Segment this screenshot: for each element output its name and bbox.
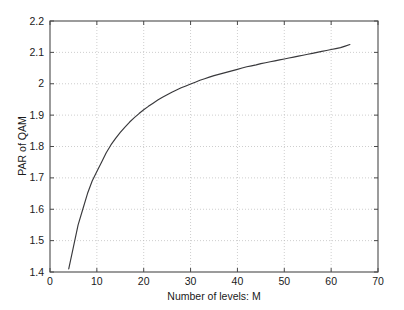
y-tick-label: 1.6 [29,203,44,215]
x-tick-label: 60 [325,275,337,287]
x-tick-label: 50 [278,275,290,287]
x-tick-label: 40 [232,275,244,287]
x-tick-label: 70 [372,275,384,287]
x-axis-title: Number of levels: M [167,290,260,302]
x-tick-label: 20 [138,275,150,287]
x-tick-label: 10 [91,275,103,287]
y-axis-tick-labels: 1.41.51.61.71.81.922.12.2 [29,15,44,278]
y-tick-label: 2.2 [29,15,44,27]
y-tick-label: 1.5 [29,234,44,246]
y-tick-label: 1.8 [29,140,44,152]
y-tick-label: 1.7 [29,171,44,183]
y-tick-label: 2 [38,77,44,89]
y-tick-label: 1.4 [29,266,44,278]
qam-par-line-chart: 010203040506070 1.41.51.61.71.81.922.12.… [0,0,404,310]
y-axis-title: PAR of QAM [16,116,28,175]
chart-figure: 010203040506070 1.41.51.61.71.81.922.12.… [0,0,404,310]
x-tick-label: 30 [185,275,197,287]
y-tick-label: 2.1 [29,46,44,58]
y-tick-label: 1.9 [29,109,44,121]
x-tick-label: 0 [47,275,53,287]
